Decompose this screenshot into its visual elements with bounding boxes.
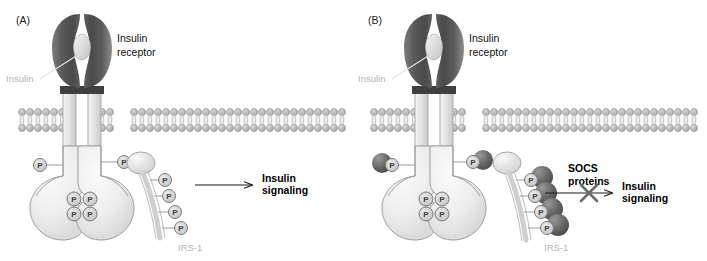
- phosphate-label: P: [172, 208, 178, 217]
- receptor-label-line2: receptor: [117, 46, 156, 58]
- phosphate-label: P: [71, 210, 77, 219]
- phosphate-label: P: [162, 176, 168, 185]
- phosphate-label: P: [37, 161, 43, 170]
- insulin-label-a: Insulin: [6, 73, 33, 84]
- insulin-signaling-diagram: (A): [0, 0, 707, 261]
- phosphate-label: P: [544, 224, 550, 233]
- phosphate-label: P: [439, 210, 445, 219]
- phosphate-label: P: [532, 192, 538, 201]
- outcome-label-line1: Insulin: [262, 172, 296, 184]
- socs-label-line2: proteins: [568, 175, 610, 187]
- outcome-label-line2: signaling: [262, 184, 308, 196]
- phosphate-label: P: [87, 195, 93, 204]
- phosphate-label: P: [71, 195, 77, 204]
- irs1-label-b: IRS-1: [544, 242, 568, 253]
- outcome-label-line1: Insulin: [622, 180, 656, 192]
- irs1-ptb-domain: [493, 152, 521, 174]
- socs-label-line1: SOCS: [568, 162, 598, 174]
- phosphate-label: P: [538, 208, 544, 217]
- irs1-ptb-domain: [127, 152, 155, 174]
- receptor-label-line2: receptor: [469, 46, 508, 58]
- phosphate-label: P: [389, 161, 395, 170]
- phosphate-label: P: [87, 210, 93, 219]
- phosphate-label: P: [423, 195, 429, 204]
- phosphate-label: P: [439, 195, 445, 204]
- phosphate-label: P: [121, 158, 127, 167]
- outcome-label-line2: signaling: [622, 192, 668, 204]
- phosphate-label: P: [528, 176, 534, 185]
- figure-root: (A): [0, 0, 707, 261]
- panel-b-label: (B): [368, 14, 382, 26]
- irs1-label-a: IRS-1: [178, 242, 202, 253]
- insulin-label-b: Insulin: [358, 73, 385, 84]
- receptor-label-line1: Insulin: [117, 32, 148, 44]
- receptor-label-line1: Insulin: [469, 32, 500, 44]
- phosphate-label: P: [470, 158, 476, 167]
- phosphate-label: P: [423, 210, 429, 219]
- phosphate-label: P: [178, 224, 184, 233]
- panel-a-label: (A): [16, 14, 30, 26]
- phosphate-label: P: [166, 192, 172, 201]
